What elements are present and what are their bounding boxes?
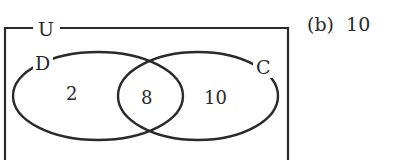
set-d-label: D (35, 52, 50, 74)
universal-set-label: U (38, 18, 54, 40)
region-only-d: 2 (66, 83, 77, 104)
option-value: 10 (346, 13, 370, 35)
region-d-and-c: 8 (141, 87, 152, 108)
answer-option: (b) 10 (307, 13, 370, 35)
region-only-c: 10 (204, 87, 227, 108)
set-c-label: C (256, 56, 271, 78)
option-marker: (b) (307, 13, 334, 35)
